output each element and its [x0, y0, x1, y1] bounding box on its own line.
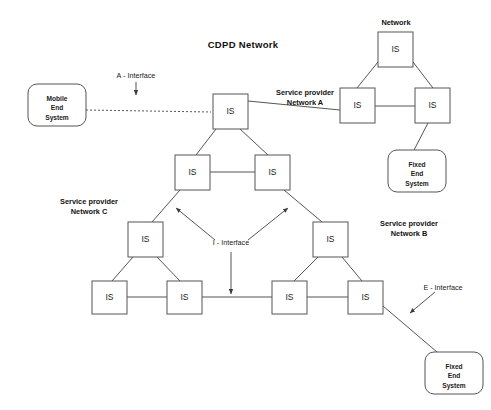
is-node-is-mid-left[interactable]: IS [175, 155, 210, 190]
is-node-is-net-top[interactable]: IS [378, 32, 413, 67]
label-e-interface: E - Interface [423, 283, 462, 292]
connection-link-a-top-mid-right [240, 129, 268, 155]
end-system-label-line3: System [45, 114, 69, 122]
label-a-interface: A - Interface [117, 71, 156, 80]
label-network-c-line2: Network C [71, 207, 108, 216]
fixed-end-system-b[interactable]: FixedEndSystem [425, 352, 483, 394]
end-system-label-line2: End [51, 104, 63, 111]
is-node-label: IS [285, 292, 293, 302]
is-node-label: IS [428, 100, 436, 110]
connection-link-net-right-fixed [414, 123, 428, 150]
label-network-c-line1: Service provider [60, 197, 118, 206]
arrow-e-iface-arrow [410, 292, 435, 313]
end-system-label-line3: System [442, 382, 466, 390]
connection-link-a-top-mid-left [196, 129, 216, 155]
end-system-label-line2: End [448, 372, 460, 379]
is-node-is-b-left[interactable]: IS [272, 281, 307, 314]
is-node-label: IS [353, 100, 361, 110]
diagram-title: CDPD Network [208, 39, 279, 50]
connection-link-net-top-left [357, 62, 378, 88]
is-node-is-b-right[interactable]: IS [348, 281, 383, 314]
is-node-is-mid-right[interactable]: IS [255, 155, 290, 190]
connection-link-mid-left-c-top [152, 190, 180, 222]
links-layer [86, 62, 437, 352]
connection-link-b-top-b-right [342, 257, 362, 281]
end-system-label-line1: Fixed [445, 363, 462, 370]
is-node-label: IS [141, 234, 149, 244]
is-node-label: IS [105, 292, 113, 302]
label-network-b-line1: Service provider [380, 219, 438, 228]
connection-link-c-top-c-right [157, 257, 180, 281]
is-node-label: IS [361, 292, 369, 302]
is-node-is-a-top[interactable]: IS [213, 94, 248, 129]
label-network: Network [381, 18, 411, 27]
fixed-end-system-a[interactable]: FixedEndSystem [388, 150, 446, 192]
label-network-a-line2: Network A [287, 98, 324, 107]
connection-link-mid-right-b-top [284, 190, 322, 222]
is-node-label: IS [188, 167, 196, 177]
is-node-is-c-top[interactable]: IS [128, 222, 163, 257]
annotation-arrows-layer [136, 82, 435, 313]
is-node-is-b-top[interactable]: IS [313, 222, 348, 257]
is-node-label: IS [226, 106, 234, 116]
arrow-i-iface-arrow-upright [248, 208, 288, 240]
is-node-is-c-right[interactable]: IS [167, 281, 202, 314]
is-node-label: IS [268, 167, 276, 177]
end-system-label-line1: Mobile [47, 95, 68, 102]
connection-link-c-top-c-left [112, 257, 133, 281]
mobile-end-system[interactable]: MobileEndSystem [28, 84, 86, 126]
connection-link-net-top-right [413, 62, 433, 88]
is-node-label: IS [391, 44, 399, 54]
is-node-is-c-left[interactable]: IS [92, 281, 127, 314]
is-node-label: IS [180, 292, 188, 302]
end-system-label-line2: End [411, 170, 423, 177]
label-network-b-line2: Network B [391, 229, 428, 238]
end-system-label-line1: Fixed [408, 161, 425, 168]
is-node-is-net-right[interactable]: IS [415, 88, 450, 123]
end-system-label-line3: System [405, 180, 429, 188]
is-node-is-net-left[interactable]: IS [340, 88, 375, 123]
label-network-a-line1: Service provider [276, 88, 334, 97]
end-systems-layer: MobileEndSystemFixedEndSystemFixedEndSys… [28, 84, 483, 394]
arrow-i-iface-arrow-upleft [176, 208, 215, 240]
label-i-interface: I - Interface [213, 238, 249, 247]
cdpd-network-diagram: ISISISISISISISISISISISIS MobileEndSystem… [0, 0, 491, 410]
diagram-canvas: ISISISISISISISISISISISIS MobileEndSystem… [0, 0, 491, 410]
connection-link-mobile-a-top [86, 110, 211, 112]
connection-link-b-top-b-left [294, 257, 318, 281]
is-node-label: IS [326, 234, 334, 244]
